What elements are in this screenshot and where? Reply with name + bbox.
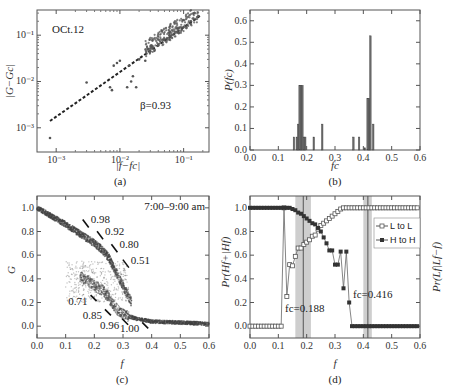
data-point xyxy=(136,317,138,319)
data-point xyxy=(126,310,128,312)
data-point xyxy=(97,299,98,300)
data-point xyxy=(128,313,130,315)
data-point xyxy=(43,212,45,214)
plot-frame xyxy=(250,196,420,338)
data-point xyxy=(94,291,95,292)
data-point xyxy=(163,38,166,41)
data-point xyxy=(164,320,166,322)
data-point xyxy=(99,291,100,292)
data-point xyxy=(169,25,171,27)
data-point xyxy=(107,252,109,254)
data-point xyxy=(125,272,126,273)
data-point xyxy=(89,276,90,277)
data-point xyxy=(65,286,66,287)
data-point xyxy=(190,13,192,15)
data-point xyxy=(101,297,102,298)
panel-label-a: (a) xyxy=(114,175,127,188)
panel-b: 0.00.10.20.30.40.50.60.00.10.20.30.40.50… xyxy=(222,10,426,188)
data-point xyxy=(85,286,86,287)
data-point xyxy=(169,320,171,322)
data-point xyxy=(92,283,93,284)
data-point xyxy=(82,268,83,269)
data-point xyxy=(197,15,200,18)
data-point xyxy=(122,263,123,264)
data-point xyxy=(127,292,129,294)
data-point xyxy=(183,19,185,21)
data-point xyxy=(114,303,116,305)
data-point xyxy=(105,271,106,272)
data-point xyxy=(125,311,127,313)
data-point xyxy=(89,268,90,269)
y-tick-label: 0.3 xyxy=(235,79,248,90)
figure: 10⁻³10⁻³10⁻²10⁻²10⁻¹10⁻¹OCt.12β=0.93|f−f… xyxy=(0,0,450,389)
filled-square-marker xyxy=(342,286,346,290)
filled-square-marker xyxy=(347,301,351,305)
data-point xyxy=(97,284,98,285)
x-tick-label: 0.3 xyxy=(117,340,130,351)
data-point xyxy=(109,86,112,89)
data-point xyxy=(144,59,147,62)
data-point xyxy=(120,314,122,316)
data-point xyxy=(93,286,94,287)
y-tick-label: 0.4 xyxy=(22,273,35,284)
data-point xyxy=(111,301,112,302)
data-point xyxy=(144,319,146,321)
data-point xyxy=(159,321,161,323)
data-point xyxy=(154,34,156,36)
data-point xyxy=(98,283,100,285)
y-tick-label: 0.8 xyxy=(235,226,248,237)
data-point xyxy=(121,299,122,300)
panel-label-d: (d) xyxy=(329,373,342,386)
data-point xyxy=(101,272,102,273)
data-point xyxy=(96,268,97,269)
data-point xyxy=(197,322,199,324)
data-point xyxy=(40,208,42,210)
data-point xyxy=(100,268,101,269)
data-point xyxy=(87,284,89,286)
data-point xyxy=(117,277,119,279)
data-point xyxy=(168,31,170,33)
data-point xyxy=(83,276,85,278)
data-point xyxy=(110,279,111,280)
data-point xyxy=(135,320,137,322)
data-point xyxy=(99,262,100,263)
data-point xyxy=(106,255,108,257)
data-point xyxy=(145,43,147,45)
data-point xyxy=(175,25,177,27)
y-tick-label: 10⁻² xyxy=(16,75,34,86)
data-point xyxy=(115,310,117,312)
data-point xyxy=(105,297,106,298)
x-tick-label: 0.4 xyxy=(357,152,370,163)
data-point xyxy=(119,272,120,273)
data-point xyxy=(192,323,194,325)
arrow-label: 0.98 xyxy=(91,213,111,225)
y-axis-title: G xyxy=(5,266,17,274)
data-point xyxy=(97,300,98,301)
data-point xyxy=(98,243,100,245)
data-point xyxy=(146,46,148,48)
data-point xyxy=(66,276,67,277)
data-point xyxy=(88,239,90,241)
beta-annotation: β=0.93 xyxy=(140,99,172,111)
data-point xyxy=(119,263,120,264)
data-point xyxy=(130,315,132,317)
fc-label-1: fc=0.188 xyxy=(285,302,325,314)
data-point xyxy=(75,287,76,288)
data-point xyxy=(119,308,121,310)
legend-label-l-to-l: L to L xyxy=(390,221,412,231)
data-point xyxy=(117,286,118,287)
data-point xyxy=(91,282,92,283)
data-point xyxy=(101,287,102,288)
data-point xyxy=(177,323,179,325)
filled-square-marker xyxy=(336,263,340,267)
data-point xyxy=(94,295,95,296)
data-point xyxy=(91,290,92,291)
x-tick-label: 0.1 xyxy=(272,340,285,351)
data-point xyxy=(115,297,116,298)
data-point xyxy=(187,16,189,18)
data-point xyxy=(148,319,150,321)
data-point xyxy=(184,322,186,324)
data-point xyxy=(101,262,102,263)
filled-square-marker xyxy=(322,235,326,239)
data-point xyxy=(86,277,87,278)
